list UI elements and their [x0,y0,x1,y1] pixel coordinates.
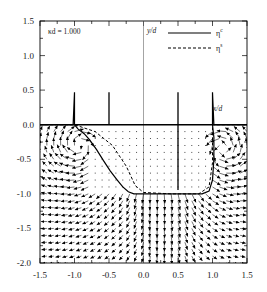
legend-label-eta-c: ηc [216,28,223,38]
y-tick-label: 1.0 [4,52,34,61]
y-tick-label: -2.0 [1,259,31,268]
y-tick-label: -1.0 [1,190,31,199]
x-tick-label: 0.5 [163,271,193,280]
legend-eta-c-superscript: c [220,27,222,33]
kappa-d-annotation: κd = 1.000 [48,28,80,36]
y-tick-label: -1.5 [1,224,31,233]
x-axis-label: x/d [213,105,222,113]
y-tick-label: 1.5 [4,17,34,26]
legend-eta-s-superscript: s [220,42,222,48]
x-tick-label: 0.0 [129,271,159,280]
x-tick-label: -0.5 [94,271,124,280]
y-axis-label: y/d [147,27,156,35]
y-tick-label: 0.5 [4,86,34,95]
x-tick-label: -1.5 [25,271,55,280]
x-tick-label: 1.5 [232,271,262,280]
x-tick-label: -1.0 [60,271,90,280]
x-tick-label: 1.0 [198,271,228,280]
legend-label-eta-s: ηs [216,43,222,53]
y-tick-label: 0.0 [4,121,34,130]
y-tick-label: -0.5 [1,155,31,164]
vector-field-chart [0,0,267,292]
